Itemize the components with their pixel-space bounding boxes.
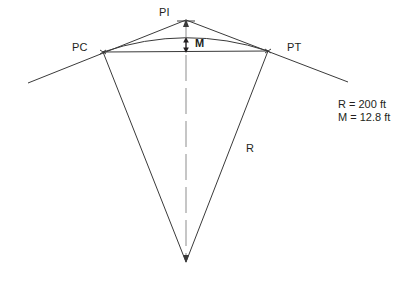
horizontal-curve-diagram: PI PC PT M R R = 200 ft M = 12.8 ft	[0, 0, 411, 283]
curve-geometry-svg	[0, 0, 411, 283]
value-annotation-block: R = 200 ft M = 12.8 ft	[338, 98, 390, 124]
middle-ordinate-arrowhead-down-icon	[183, 48, 189, 54]
label-pc: PC	[72, 41, 88, 53]
middle-ordinate-value-text: M = 12.8 ft	[338, 111, 390, 124]
radius-line-to-pc	[103, 52, 186, 262]
radius-line-to-pt	[186, 51, 268, 262]
label-radius: R	[246, 142, 254, 154]
pi-arrowhead-icon	[183, 19, 189, 27]
label-middle-ordinate: M	[195, 37, 204, 49]
label-pi: PI	[159, 6, 170, 18]
label-pt: PT	[287, 41, 301, 53]
radius-value-text: R = 200 ft	[338, 98, 390, 111]
center-arrowhead-icon	[183, 255, 189, 263]
